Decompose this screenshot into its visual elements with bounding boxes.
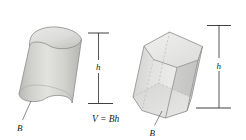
prism-height-dimension: h [196, 26, 231, 109]
cylinder-height-label: h [96, 62, 101, 72]
prism-base-label: B [150, 128, 156, 138]
oblique-hexagonal-prism-solid [133, 32, 203, 118]
figure-canvas: B h V = Bh [0, 0, 246, 140]
cylinder-height-dimension: h [88, 33, 113, 104]
geometry-figure: B h V = Bh [0, 0, 246, 140]
prism-height-label: h [217, 61, 222, 71]
cylinder-base-label: B [17, 123, 23, 133]
volume-formula: V = Bh [92, 114, 120, 124]
oblique-cylinder-solid [19, 27, 82, 103]
cylinder-base-leader-line [23, 101, 32, 120]
